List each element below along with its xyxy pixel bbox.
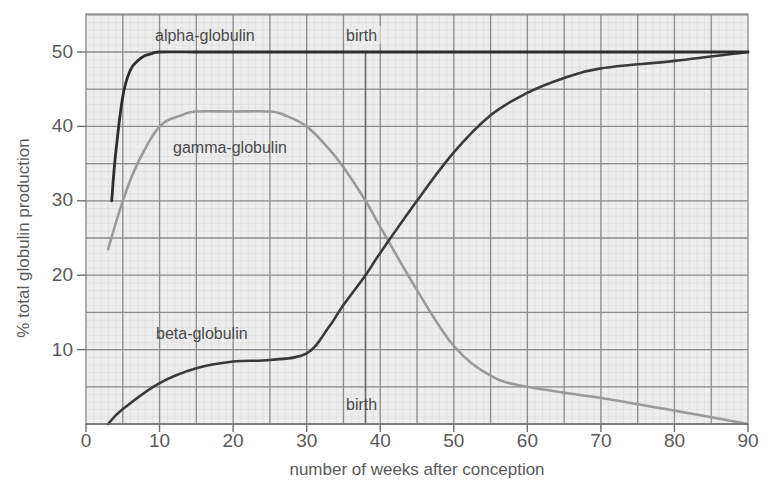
beta-globulin-label: beta-globulin [156,325,248,342]
y-tick-label-10: 10 [52,339,73,360]
y-tick-label-20: 20 [52,264,73,285]
x-tick-label-10: 10 [149,430,170,451]
y-tick-label-50: 50 [52,41,73,62]
gamma-globulin-label: gamma-globulin [173,139,287,156]
y-tick-label-30: 30 [52,189,73,210]
x-tick-label-40: 40 [370,430,391,451]
x-tick-label-90: 90 [737,430,758,451]
alpha-globulin-label: alpha-globulin [155,27,255,44]
x-axis-title: number of weeks after conception [289,460,544,479]
y-axis-title: % total globulin production [14,138,33,337]
x-tick-label-0: 0 [81,430,92,451]
x-tick-label-20: 20 [223,430,244,451]
x-tick-label-30: 30 [296,430,317,451]
globulin-production-chart: 0 10 20 30 40 50 60 70 80 90 50 40 30 20… [0,0,778,497]
x-tick-label-80: 80 [664,430,685,451]
x-tick-label-70: 70 [590,430,611,451]
x-ticks [86,424,748,432]
birth-label-top: birth [346,27,377,44]
x-tick-label-60: 60 [517,430,538,451]
y-tick-label-40: 40 [52,115,73,136]
x-tick-label-50: 50 [443,430,464,451]
y-ticks [77,52,86,350]
birth-label-bottom: birth [346,396,377,413]
